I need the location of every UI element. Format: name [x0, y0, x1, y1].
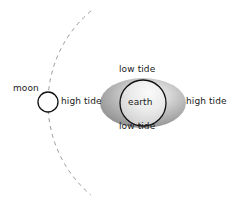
moon-label: moon [13, 84, 39, 93]
low-tide-top-label: low tide [119, 65, 155, 74]
high-tide-right-label: high tide [186, 97, 227, 106]
earth-label: earth [128, 98, 153, 107]
high-tide-left-label: high tide [61, 97, 102, 106]
tides-diagram: moon high tide high tide low tide low ti… [0, 0, 237, 206]
moon-circle [38, 92, 58, 112]
low-tide-bottom-label: low tide [119, 122, 155, 131]
